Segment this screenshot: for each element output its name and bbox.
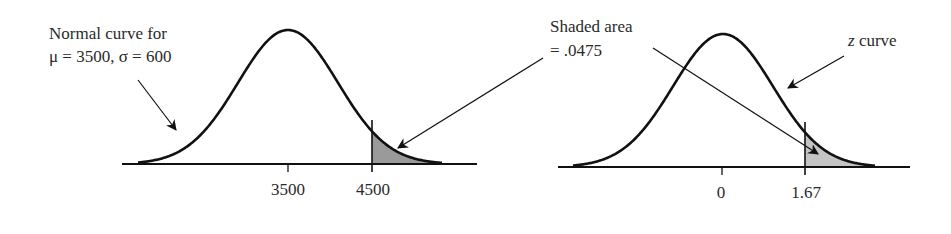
shaded-area-label-line2: = .0475 xyxy=(550,41,602,61)
tick-label-4500: 4500 xyxy=(356,180,390,200)
z-symbol: z xyxy=(848,31,855,50)
tick-label-3500: 3500 xyxy=(271,180,305,200)
left-normal-chart xyxy=(122,30,477,172)
left-annotation-line1: Normal curve for xyxy=(49,24,167,44)
left-annotation-arrow xyxy=(138,80,176,130)
right-shaded-tail xyxy=(805,132,875,167)
z-curve-text: curve xyxy=(855,31,897,50)
left-annotation-line2: μ = 3500, σ = 600 xyxy=(49,47,171,67)
right-curve xyxy=(573,34,875,166)
left-curve xyxy=(138,30,442,163)
left-shaded-tail xyxy=(372,131,442,164)
shaded-area-label-line1: Shaded area xyxy=(550,17,633,37)
z-curve-arrow xyxy=(788,56,844,88)
z-curve-label: z curve xyxy=(848,31,897,51)
shaded-area-arrow-right xyxy=(653,48,818,154)
right-z-chart xyxy=(558,34,910,175)
shaded-area-arrow-left xyxy=(398,58,543,148)
tick-label-0: 0 xyxy=(717,183,726,203)
tick-label-1-67: 1.67 xyxy=(791,183,821,203)
